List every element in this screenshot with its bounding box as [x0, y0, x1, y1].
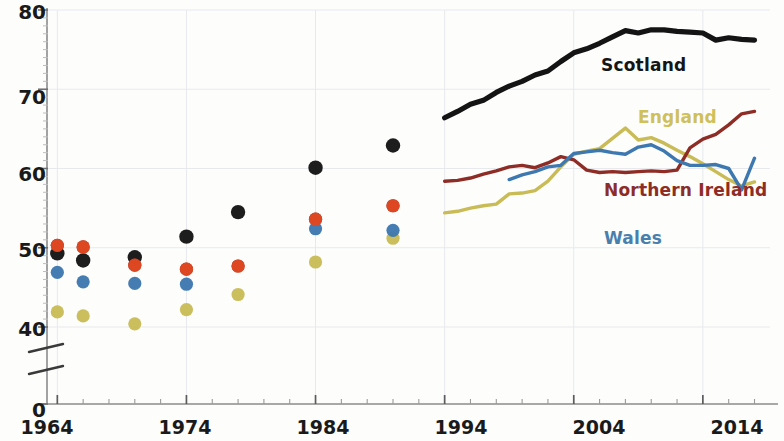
- x-tick-label-1974: 1974: [140, 416, 230, 438]
- x-tick-label-1984: 1984: [278, 416, 368, 438]
- series-label-scotland: Scotland: [601, 55, 686, 75]
- y-tick-label-60: 60: [0, 162, 46, 186]
- y-tick-label-50: 50: [0, 238, 46, 262]
- y-tick-label-40: 40: [0, 317, 46, 341]
- x-tick-label-1994: 1994: [416, 416, 506, 438]
- series-label-northern-ireland: Northern Ireland: [604, 180, 767, 200]
- x-tick-label-1964: 1964: [2, 416, 92, 438]
- x-tick-label-2014: 2014: [692, 416, 782, 438]
- series-label-england: England: [638, 107, 717, 127]
- y-tick-label-70: 70: [0, 85, 46, 109]
- y-tick-label-80: 80: [0, 0, 46, 24]
- series-markers: [50, 138, 400, 330]
- chart-container: 80 70 60 50 40 0 1964 1974 1984 1994 200…: [0, 0, 784, 441]
- x-tick-label-2004: 2004: [554, 416, 644, 438]
- series-label-wales: Wales: [604, 228, 662, 248]
